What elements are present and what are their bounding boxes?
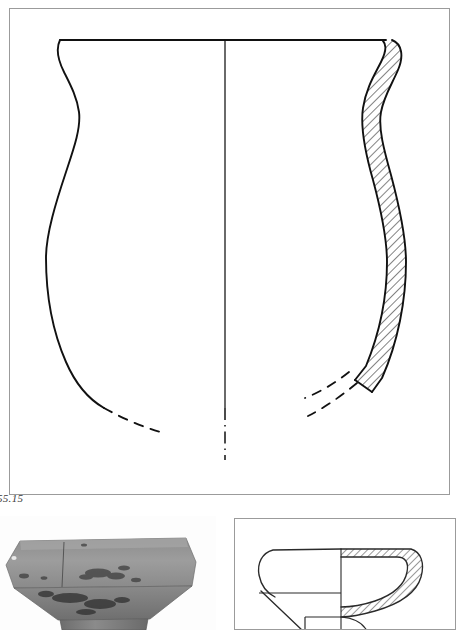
photo-pedestal-stem <box>60 619 148 630</box>
reconstruction-dashed-left <box>104 408 164 433</box>
reconstruction-dashed-right-outer <box>308 383 357 416</box>
vessel-profile-detail <box>235 519 456 630</box>
figure-plate: 55.15 <box>0 0 458 630</box>
detail-drawing-panel <box>234 518 456 630</box>
vessel-profile-main <box>0 0 458 500</box>
profile-outline-left <box>46 40 104 408</box>
bottom-row <box>0 516 458 630</box>
section-hatching <box>330 20 440 420</box>
artefact-photograph <box>0 516 216 630</box>
figure-label: 55.15 <box>0 492 23 504</box>
